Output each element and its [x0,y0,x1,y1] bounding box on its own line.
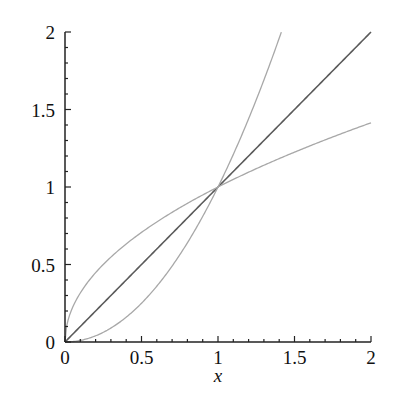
x-tick-label: 1.5 [283,347,307,368]
x-axis-label: x [213,365,223,386]
x-tick-label: 0 [60,347,70,368]
y-tick-label: 1.5 [31,100,55,121]
chart: 00.511.5200.511.52 x [0,0,400,404]
y-tick-label: 1 [46,177,56,198]
x-tick-label: 0.5 [130,347,154,368]
y-tick-label: 0.5 [31,255,55,276]
series-line [65,32,281,342]
x-tick-label: 2 [366,347,376,368]
series-line [65,123,371,342]
y-tick-label: 2 [46,22,56,43]
y-tick-label: 0 [46,332,56,353]
curves [65,32,371,342]
